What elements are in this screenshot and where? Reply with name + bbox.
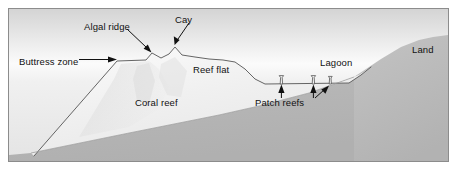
label-coral-reef: Coral reef [135, 98, 178, 108]
label-buttress-zone: Buttress zone [19, 57, 78, 67]
label-lagoon: Lagoon [320, 58, 352, 68]
diagram-frame: Buttress zone Algal ridge Cay Reef flat … [8, 8, 449, 162]
coral-reef-diagram: Buttress zone Algal ridge Cay Reef flat … [0, 0, 457, 170]
label-cay: Cay [175, 15, 192, 25]
label-land: Land [412, 45, 434, 55]
reef-cross-section-illustration [9, 9, 448, 161]
label-reef-flat: Reef flat [193, 65, 229, 75]
label-patch-reefs: Patch reefs [255, 98, 304, 108]
label-algal-ridge: Algal ridge [84, 22, 130, 32]
